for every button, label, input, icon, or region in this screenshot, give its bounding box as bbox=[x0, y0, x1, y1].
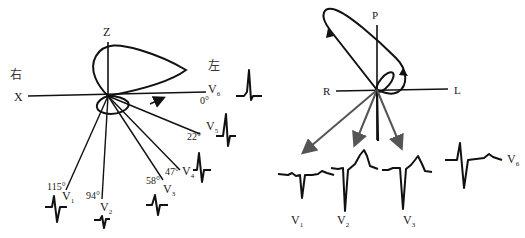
vector-arrow-v3 bbox=[377, 90, 401, 147]
lead-line-v2 bbox=[102, 96, 108, 199]
svg-text:V2: V2 bbox=[100, 200, 113, 216]
r-axis-label: R bbox=[323, 85, 331, 97]
lead-line-v3 bbox=[108, 96, 163, 180]
lead-label-v1: 115° V1 bbox=[47, 181, 75, 205]
lead-label-v5: V5 22° bbox=[187, 119, 219, 142]
ecg-trace-v6 bbox=[236, 70, 262, 100]
ecg-trace-v5 bbox=[216, 114, 236, 146]
svg-text:0°: 0° bbox=[200, 95, 209, 106]
lead-line-v1 bbox=[66, 96, 108, 190]
ecg-trace-v3 bbox=[382, 156, 432, 209]
svg-text:58°: 58° bbox=[146, 175, 160, 186]
ecg-trace-v2 bbox=[331, 150, 378, 211]
vectorcardiogram-diagram: Z X 右 左 V6 0° V5 22° 47° V4 bbox=[0, 0, 525, 238]
ecg-trace-v1 bbox=[278, 171, 334, 198]
lead-label-v2: V2 bbox=[337, 213, 350, 229]
qrs-loop bbox=[93, 45, 186, 96]
lead-label-v3: 58° V3 bbox=[146, 175, 176, 198]
left-panel-horizontal-plane: Z X 右 左 V6 0° V5 22° 47° V4 bbox=[10, 25, 262, 228]
lead-label-v2: 94° V2 bbox=[86, 190, 113, 216]
svg-text:94°: 94° bbox=[86, 190, 100, 201]
left-side-label: 左 bbox=[208, 58, 220, 73]
loop-arrow-icon bbox=[399, 68, 408, 76]
lead-label-v1: V1 bbox=[291, 213, 304, 229]
lead-label-v6: V6 bbox=[507, 152, 520, 168]
ecg-trace-v3 bbox=[146, 195, 168, 215]
svg-text:V6: V6 bbox=[208, 82, 221, 98]
right-side-label: 右 bbox=[10, 67, 22, 82]
right-panel-vector-loop: P R L V1 V2 V3 V6 bbox=[278, 9, 520, 229]
p-axis-label: P bbox=[372, 9, 378, 21]
rl-axis bbox=[336, 89, 448, 91]
ecg-trace-v4 bbox=[193, 153, 211, 182]
svg-text:V5: V5 bbox=[206, 119, 219, 135]
qrs-vector-loop bbox=[323, 9, 405, 94]
x-axis-label: X bbox=[14, 90, 23, 104]
lead-label-v4: 47° V4 bbox=[165, 164, 195, 180]
svg-text:V3: V3 bbox=[163, 182, 176, 198]
l-axis-label: L bbox=[454, 84, 461, 96]
lead-line-v4 bbox=[108, 96, 180, 170]
lead-label-v6: V6 0° bbox=[200, 82, 221, 106]
z-axis-label: Z bbox=[103, 25, 110, 39]
ecg-trace-v6 bbox=[445, 143, 502, 188]
svg-text:V1: V1 bbox=[62, 189, 75, 205]
direction-arrow-icon bbox=[150, 98, 163, 104]
svg-text:47°: 47° bbox=[165, 166, 179, 177]
vector-line-center bbox=[377, 90, 378, 141]
svg-text:V4: V4 bbox=[182, 164, 195, 180]
vector-arrow-v1 bbox=[304, 90, 377, 152]
lead-label-v3: V3 bbox=[403, 213, 416, 229]
ecg-trace-v2 bbox=[94, 216, 110, 228]
svg-text:22°: 22° bbox=[187, 131, 201, 142]
